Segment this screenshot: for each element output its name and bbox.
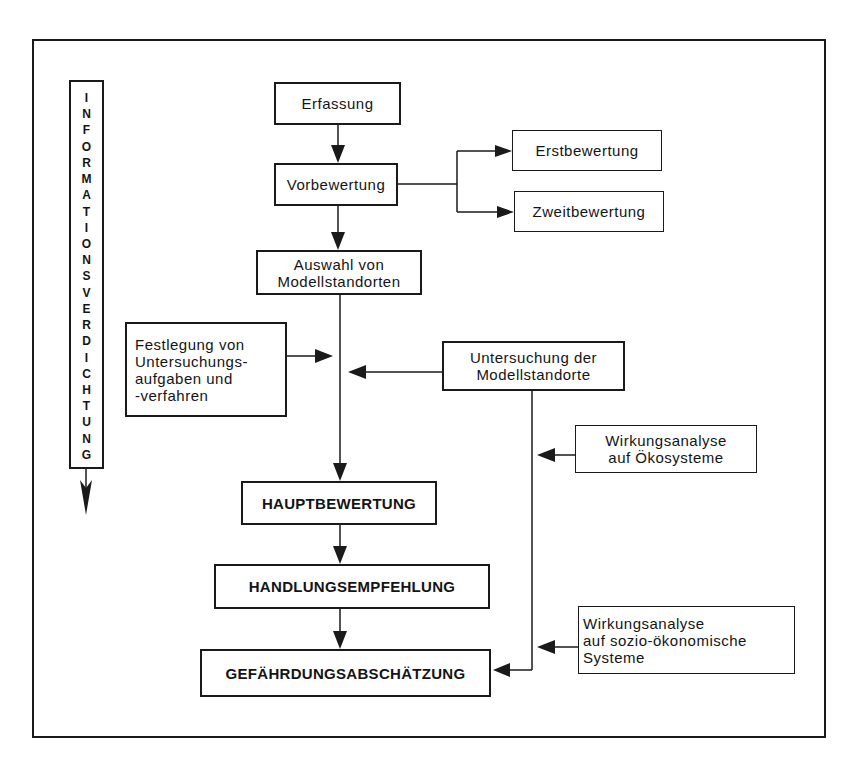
- node-festlegung-untersuchungsaufgaben: Festlegung von Untersuchungs- aufgaben u…: [125, 322, 287, 417]
- node-erstbewertung: Erstbewertung: [512, 130, 662, 171]
- node-untersuchung-modellstandorte: Untersuchung der Modellstandorte: [442, 341, 625, 391]
- node-label: Wirkungsanalyse auf Ökosysteme: [605, 432, 727, 466]
- node-zweitbewertung: Zweitbewertung: [514, 191, 664, 232]
- node-label: Erstbewertung: [535, 142, 638, 159]
- node-label: GEFÄHRDUNGSABSCHÄTZUNG: [226, 665, 466, 682]
- node-wirkungsanalyse-sozio: Wirkungsanalyse auf sozio-ökonomische Sy…: [578, 606, 795, 674]
- node-label: Zweitbewertung: [533, 203, 646, 220]
- node-hauptbewertung: HAUPTBEWERTUNG: [241, 481, 437, 525]
- node-handlungsempfehlung: HANDLUNGSEMPFEHLUNG: [214, 564, 490, 609]
- node-erfassung: Erfassung: [274, 82, 401, 125]
- node-label: HANDLUNGSEMPFEHLUNG: [249, 578, 456, 595]
- node-gefaehrdungsabschaetzung: GEFÄHRDUNGSABSCHÄTZUNG: [200, 649, 491, 697]
- node-label: Wirkungsanalyse auf sozio-ökonomische Sy…: [583, 615, 747, 666]
- node-label: HAUPTBEWERTUNG: [262, 495, 416, 512]
- node-auswahl-modellstandorte: Auswahl von Modellstandorten: [256, 250, 422, 295]
- node-label: Untersuchung der Modellstandorte: [470, 349, 597, 383]
- node-label: Erfassung: [301, 95, 373, 112]
- node-label: Vorbewertung: [287, 176, 386, 193]
- node-label: Festlegung von Untersuchungs- aufgaben u…: [135, 336, 248, 404]
- node-vorbewertung: Vorbewertung: [274, 163, 398, 206]
- node-wirkungsanalyse-oekosysteme: Wirkungsanalyse auf Ökosysteme: [575, 425, 757, 473]
- node-label: Auswahl von Modellstandorten: [277, 256, 400, 290]
